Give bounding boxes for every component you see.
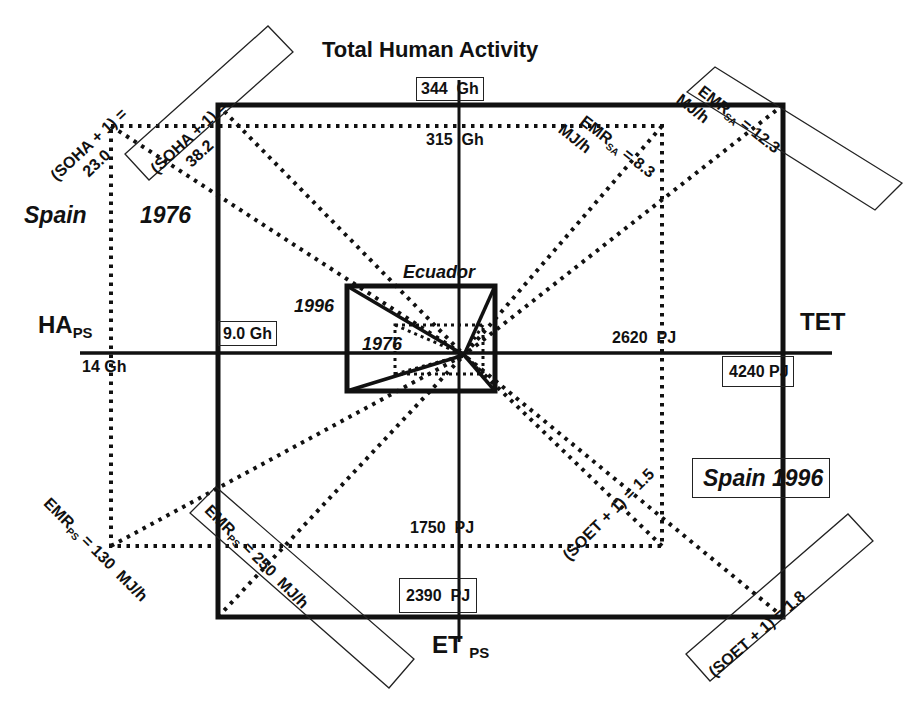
axis-label-ha-ps: HAPS [38,313,93,341]
axis-label-et-ps: ET PS [432,633,489,660]
value-left-solid: 9.0 Gh [218,321,277,346]
axis-label-tet: TET [800,310,845,334]
label-spain-1996: Spain 1996 [692,458,830,498]
axis-label-et-sub: PS [469,644,489,661]
axis-label-et-main: ET [432,631,463,658]
value-bottom-dotted: 1750 PJ [410,520,474,536]
axis-label-ha-sub: PS [73,325,93,341]
value-bottom-solid: 2390 PJ [399,578,477,613]
label-spain-1976-a: Spain [24,204,87,227]
value-right-dotted: 2620 PJ [612,330,676,346]
soet-1996-box [686,514,873,681]
label-spain-1976-b: 1976 [140,204,191,227]
value-top-solid: 344 Gh [416,77,484,101]
diagram-title: Total Human Activity [322,39,538,61]
value-top-dotted: 315 Gh [426,132,484,148]
label-ecuador-1976: 1976 [362,335,402,353]
label-ecuador: Ecuador [403,263,475,281]
spain-1996-solid-shape [218,105,783,617]
value-left-dotted: 14 Gh [82,359,126,375]
axis-label-ha-main: HA [38,311,73,338]
value-right-solid: 4240 PJ [722,356,794,387]
label-ecuador-1996: 1996 [294,297,334,315]
